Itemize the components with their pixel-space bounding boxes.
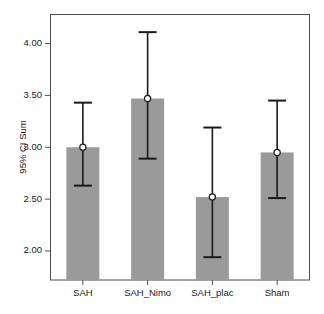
chart-canvas: 95% CI Sum 4.00 3.50 3.00 2.50 2.00 [0, 0, 324, 314]
y-tick-label: 3.50 [24, 89, 43, 100]
x-tick-label-sah: SAH [73, 287, 93, 298]
mean-marker-sah[interactable] [80, 144, 86, 150]
mean-marker-sah-nimo[interactable] [145, 95, 151, 101]
x-tick-label-sham: Sham [265, 287, 290, 298]
x-tick-label-sah-plac: SAH_plac [191, 287, 233, 298]
mean-marker-sham[interactable] [274, 149, 280, 155]
bar-chart-with-error-bars: 95% CI Sum 4.00 3.50 3.00 2.50 2.00 [0, 0, 324, 314]
mean-marker-sah-plac[interactable] [209, 194, 215, 200]
y-tick-label: 3.00 [24, 141, 43, 152]
x-tick-label-sah-nimo: SAH_Nimo [124, 287, 171, 298]
y-tick-label: 2.50 [24, 193, 43, 204]
y-tick-label: 2.00 [24, 244, 43, 255]
y-tick-label: 4.00 [24, 37, 43, 48]
